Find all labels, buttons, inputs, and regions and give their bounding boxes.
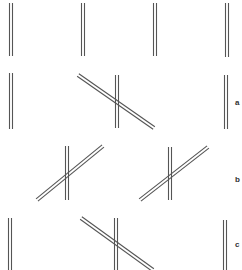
line-stroke: [141, 148, 209, 201]
line-stroke: [80, 219, 152, 270]
vertical-double-line: [225, 75, 228, 129]
vertical-double-line: [224, 220, 227, 270]
vertical-double-line: [82, 3, 85, 56]
vertical-double-line: [154, 3, 157, 56]
oblique-double-line: [36, 145, 104, 201]
vertical-double-line: [10, 73, 13, 129]
row-label-b: b: [235, 175, 240, 184]
line-stroke: [79, 74, 155, 127]
vertical-double-line: [9, 218, 12, 270]
row-label-a: a: [235, 98, 240, 107]
vertical-double-line: [10, 3, 13, 56]
vertical-double-line: [226, 3, 229, 57]
illusion-figure: a b c: [0, 0, 242, 270]
row-label-c: c: [235, 240, 240, 249]
oblique-double-line: [139, 146, 209, 201]
line-stroke: [139, 146, 207, 199]
figure-lines: [9, 3, 229, 270]
line-stroke: [38, 147, 104, 201]
line-stroke: [36, 145, 102, 199]
